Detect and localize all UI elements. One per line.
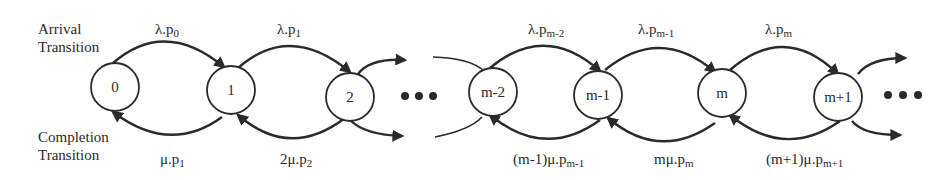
- arrival-rate-label-m: λ.pm: [765, 21, 793, 39]
- arrival-rate-label-0: λ.p0: [155, 21, 180, 39]
- svg-text:Completion: Completion: [38, 129, 109, 145]
- completion-edge-2-out: [350, 120, 402, 136]
- completion-edge-in-m-2: [435, 117, 482, 137]
- arrival-edge-m+1-out: [858, 58, 905, 74]
- svg-text:Transition: Transition: [38, 39, 100, 55]
- arrival-edge-1-2: [238, 46, 350, 72]
- arrival-rate-label-m-2: λ.pm-2: [528, 21, 564, 39]
- svg-text:m: m: [716, 85, 728, 101]
- svg-text:Transition: Transition: [38, 147, 100, 163]
- state-node-m+1: m+1: [814, 73, 862, 121]
- arrival-rate-label-1: λ.p1: [277, 21, 301, 39]
- svg-text:2: 2: [346, 89, 354, 105]
- completion-rate-label-m-1: (m-1)μ.pm-1: [513, 151, 584, 169]
- ellipsis-dots-middle: [401, 92, 437, 100]
- completion-edge-m+1-m: [730, 115, 840, 139]
- state-node-m-2: m-2: [469, 68, 517, 116]
- svg-text:m-1: m-1: [586, 87, 610, 103]
- completion-rate-label-m: mμ.pm: [654, 151, 694, 169]
- completion-edge-m-1-m-2: [490, 115, 600, 139]
- arrival-rate-label-m-1: λ.pm-1: [638, 21, 674, 39]
- completion-edge-m+1-out: [852, 121, 900, 135]
- svg-text:m-2: m-2: [481, 84, 505, 100]
- state-node-0: 0: [91, 63, 139, 111]
- completion-edge-2-1: [238, 115, 345, 138]
- arrival-edge-0-1: [113, 41, 224, 67]
- arrival-transition-label: Arrival Transition: [38, 21, 100, 55]
- completion-rate-label-m+1: (m+1)μ.pm+1: [766, 151, 843, 169]
- completion-rate-label-1: μ.p1: [160, 151, 185, 169]
- completion-transition-label: Completion Transition: [38, 129, 109, 163]
- arrival-edge-m-1-m: [605, 48, 715, 72]
- state-node-1: 1: [207, 66, 255, 114]
- arrival-edge-in-m-2: [433, 57, 484, 71]
- state-node-2: 2: [326, 73, 374, 121]
- markov-chain-diagram: Arrival Transition Completion Transition…: [0, 0, 951, 180]
- completion-rate-label-2: 2μ.p2: [280, 151, 312, 169]
- state-node-m-1: m-1: [574, 71, 622, 119]
- completion-edge-m-m-1: [608, 118, 715, 141]
- svg-text:0: 0: [111, 79, 119, 95]
- arrival-edge-m-2-m-1: [490, 46, 600, 71]
- completion-edge-1-0: [113, 112, 222, 135]
- svg-text:Arrival: Arrival: [38, 21, 81, 37]
- svg-text:1: 1: [227, 82, 235, 98]
- state-node-m: m: [698, 69, 746, 117]
- svg-text:m+1: m+1: [824, 89, 852, 105]
- ellipsis-dots-end: [884, 91, 922, 99]
- arrival-edge-m-m+1: [730, 47, 838, 74]
- arrival-edge-2-out: [358, 60, 405, 74]
